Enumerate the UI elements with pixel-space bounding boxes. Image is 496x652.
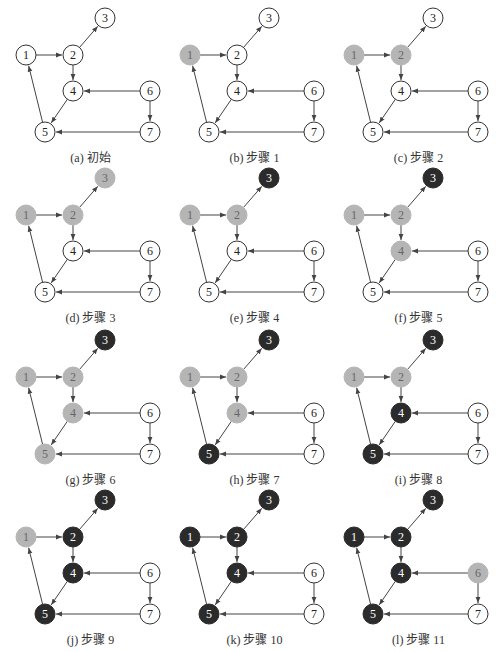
node-label: 1	[23, 48, 29, 62]
graph-node-4: 4	[391, 81, 411, 101]
graph-node-4: 4	[391, 403, 411, 423]
edge-4-5	[379, 421, 395, 445]
graph-svg: 1234567	[172, 160, 337, 310]
graph-node-6: 6	[468, 241, 488, 261]
node-label: 2	[398, 530, 404, 544]
node-label: 7	[475, 125, 481, 139]
graph-node-2: 2	[391, 205, 411, 225]
node-label: 4	[398, 84, 404, 98]
graph-node-4: 4	[63, 563, 83, 583]
node-label: 4	[70, 84, 76, 98]
node-label: 6	[311, 84, 317, 98]
graph-node-1: 1	[180, 367, 200, 387]
graph-node-3: 3	[95, 8, 115, 28]
graph-svg: 1234567	[172, 322, 337, 472]
graph-node-5: 5	[35, 282, 55, 302]
graph-node-5: 5	[35, 604, 55, 624]
graph-node-6: 6	[468, 403, 488, 423]
node-label: 7	[147, 285, 153, 299]
graph-node-3: 3	[95, 490, 115, 510]
graph-node-7: 7	[468, 122, 488, 142]
graph-node-2: 2	[63, 367, 83, 387]
node-label: 4	[70, 244, 76, 258]
node-label: 5	[370, 447, 376, 461]
edge-5-1	[357, 226, 371, 283]
edge-2-3	[408, 26, 426, 47]
graph-node-4: 4	[391, 563, 411, 583]
node-label: 4	[398, 566, 404, 580]
node-label: 6	[475, 84, 481, 98]
node-label: 7	[475, 607, 481, 621]
edge-5-1	[193, 226, 207, 283]
node-label: 1	[187, 208, 193, 222]
graph-node-2: 2	[391, 527, 411, 547]
node-label: 5	[206, 447, 212, 461]
edge-5-1	[193, 66, 207, 123]
edge-2-3	[80, 348, 98, 369]
node-label: 4	[398, 244, 404, 258]
graph-svg: 1234567	[336, 322, 496, 472]
node-label: 1	[351, 208, 357, 222]
graph-node-5: 5	[35, 444, 55, 464]
graph-node-6: 6	[304, 81, 324, 101]
graph-node-1: 1	[180, 527, 200, 547]
edge-2-3	[244, 348, 262, 369]
graph-node-6: 6	[468, 563, 488, 583]
graph-panel: 1234567(d) 步骤 3	[8, 160, 173, 322]
panel-caption: (k) 步骤 10	[172, 630, 337, 648]
node-label: 4	[398, 406, 404, 420]
node-label: 1	[187, 530, 193, 544]
edge-4-5	[215, 421, 231, 445]
panel-caption: (j) 步骤 9	[8, 630, 173, 648]
graph-node-1: 1	[344, 367, 364, 387]
node-label: 3	[102, 11, 108, 25]
graph-node-2: 2	[227, 45, 247, 65]
node-label: 5	[370, 125, 376, 139]
node-label: 6	[311, 244, 317, 258]
graph-node-4: 4	[391, 241, 411, 261]
node-label: 7	[147, 125, 153, 139]
graph-node-6: 6	[140, 563, 160, 583]
node-label: 7	[475, 285, 481, 299]
node-label: 5	[42, 285, 48, 299]
node-label: 7	[147, 607, 153, 621]
graph-node-1: 1	[180, 205, 200, 225]
graph-svg: 1234567	[336, 0, 496, 150]
node-label: 4	[70, 566, 76, 580]
graph-node-6: 6	[468, 81, 488, 101]
node-label: 1	[23, 530, 29, 544]
graph-svg: 1234567	[8, 0, 173, 150]
graph-node-7: 7	[140, 282, 160, 302]
node-label: 4	[234, 406, 240, 420]
edge-4-5	[379, 259, 395, 283]
node-label: 3	[266, 171, 272, 185]
edge-5-1	[29, 226, 43, 283]
graph-node-3: 3	[259, 168, 279, 188]
graph-node-4: 4	[227, 81, 247, 101]
edge-4-5	[51, 259, 67, 283]
graph-panel: 1234567(i) 步骤 8	[336, 322, 496, 484]
node-label: 3	[430, 11, 436, 25]
node-label: 3	[266, 11, 272, 25]
graph-panel: 1234567(j) 步骤 9	[8, 482, 173, 644]
graph-node-5: 5	[199, 282, 219, 302]
node-label: 1	[351, 530, 357, 544]
graph-node-1: 1	[16, 45, 36, 65]
graph-node-3: 3	[95, 330, 115, 350]
graph-node-6: 6	[140, 403, 160, 423]
graph-node-1: 1	[16, 367, 36, 387]
graph-node-7: 7	[140, 444, 160, 464]
graph-node-3: 3	[259, 490, 279, 510]
edge-4-5	[51, 581, 67, 605]
graph-node-1: 1	[180, 45, 200, 65]
graph-node-1: 1	[344, 527, 364, 547]
node-label: 1	[23, 208, 29, 222]
edge-5-1	[357, 388, 371, 445]
graph-node-2: 2	[63, 527, 83, 547]
node-label: 1	[23, 370, 29, 384]
graph-svg: 1234567	[8, 482, 173, 632]
node-label: 6	[147, 244, 153, 258]
node-label: 3	[430, 171, 436, 185]
edge-2-3	[244, 26, 262, 47]
graph-node-2: 2	[391, 45, 411, 65]
